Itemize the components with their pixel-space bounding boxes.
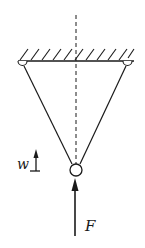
left-pivot [18,61,27,66]
left-rod [24,66,72,164]
ring [70,164,82,176]
weight-label: w [17,156,29,172]
diagram-canvas: F w [0,0,145,248]
right-pivot [123,61,132,66]
weight-arrow-head-icon [34,149,39,158]
force-label: F [84,217,96,235]
force-arrow-head-icon [72,178,79,191]
ceiling-hatch [20,49,134,60]
right-rod [80,66,126,164]
